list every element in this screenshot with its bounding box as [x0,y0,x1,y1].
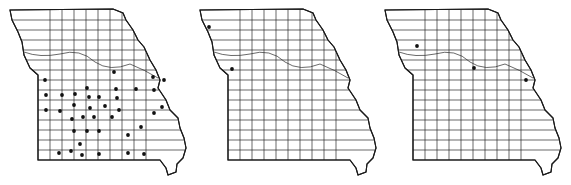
occurrence-dot [142,152,146,156]
occurrence-dot [80,153,84,157]
occurrence-dot [134,87,138,91]
occurrence-dot [88,106,92,110]
occurrence-dot [85,129,89,133]
occurrence-dot [44,93,48,97]
occurrence-dot [103,104,107,108]
occurrence-dot [112,70,116,74]
occurrence-dot [69,149,73,153]
occurrence-dot [110,115,114,119]
occurrence-dot [415,44,419,48]
missouri-map-svg [0,0,200,185]
occurrence-dot [44,108,48,112]
occurrence-dot [70,117,74,121]
county-map-3 [375,0,571,185]
occurrence-dot [126,133,130,137]
occurrence-dot [117,108,121,112]
occurrence-dot [58,109,62,113]
occurrence-dot [43,78,47,82]
occurrence-dot [139,125,143,129]
occurrence-dot [60,93,64,97]
occurrence-dot [126,151,130,155]
missouri-map-svg [190,0,390,185]
occurrence-dot [160,105,164,109]
occurrence-dot [57,151,61,155]
occurrence-dot [87,95,91,99]
occurrence-dot [230,67,234,71]
occurrence-dot [472,66,476,70]
occurrence-dot [81,115,85,119]
occurrence-dot [207,25,211,29]
missouri-map-svg [375,0,571,185]
occurrence-dot [151,75,155,79]
occurrence-dot [72,129,76,133]
county-map-2 [190,0,390,185]
occurrence-dot [162,78,166,82]
occurrence-dot [97,129,101,133]
occurrence-dot [73,92,77,96]
occurrence-dot [78,142,82,146]
occurrence-dot [524,78,528,82]
occurrence-dot [97,152,101,156]
county-map-1 [0,0,200,185]
occurrence-dot [114,87,118,91]
occurrence-dot [92,115,96,119]
occurrence-dot [85,86,89,90]
occurrence-dot [97,95,101,99]
occurrence-dot [115,96,119,100]
occurrence-dot [72,103,76,107]
occurrence-dot [152,111,156,115]
occurrence-dot [152,88,156,92]
